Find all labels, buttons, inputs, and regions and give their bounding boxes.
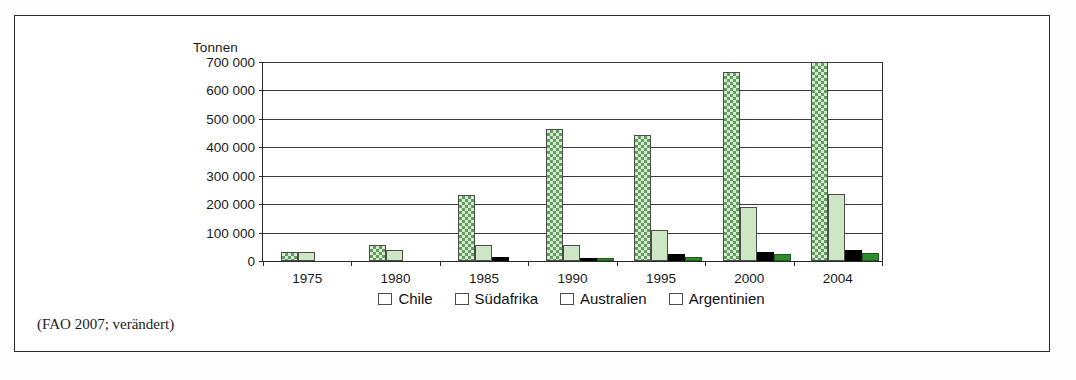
bar-chile-1975 <box>281 252 298 261</box>
legend-swatch-sudafrika <box>455 293 469 305</box>
bar-chile-2000 <box>723 72 740 261</box>
bar-sudafrika-1995 <box>651 230 668 261</box>
x-axis-tick-label-1990: 1990 <box>532 271 612 286</box>
y-axis-tick-labels: 700 000600 000500 000400 000300 000200 0… <box>187 62 255 261</box>
x-axis-tick-mark <box>882 261 883 266</box>
x-axis-tick-mark <box>617 261 618 266</box>
y-axis-tick-label: 0 <box>185 254 255 269</box>
bar-chile-1990 <box>546 129 563 261</box>
legend-item-argentinien: Argentinien <box>669 290 765 307</box>
x-axis-tick-label-1980: 1980 <box>356 271 436 286</box>
x-axis-tick-label-1995: 1995 <box>621 271 701 286</box>
legend-label: Südafrika <box>475 290 538 307</box>
y-axis-tick-label: 100 000 <box>185 225 255 240</box>
x-axis-tick-mark <box>705 261 706 266</box>
bar-chile-2004 <box>811 62 828 261</box>
category-group: 1995 <box>617 62 705 261</box>
category-group: 2000 <box>705 62 793 261</box>
x-axis-tick-label-2004: 2004 <box>798 271 878 286</box>
bar-australien-1990 <box>580 258 597 261</box>
clipped-top-text <box>150 0 910 5</box>
y-axis-tick-label: 400 000 <box>185 140 255 155</box>
bar-chart: Tonnen 700 000600 000500 000400 000300 0… <box>15 16 1049 351</box>
bar-sudafrika-1975 <box>298 252 315 261</box>
source-caption: (FAO 2007; verändert) <box>37 316 174 333</box>
legend-label: Chile <box>398 290 432 307</box>
legend-item-australien: Australien <box>560 290 647 307</box>
y-axis-tick-label: 500 000 <box>185 111 255 126</box>
category-group: 1975 <box>263 62 351 261</box>
bar-group <box>546 62 614 261</box>
bar-australien-1985 <box>492 257 509 261</box>
x-axis-tick-mark <box>263 261 264 266</box>
bar-group <box>723 62 791 261</box>
bar-australien-2004 <box>845 250 862 261</box>
y-axis-tick-label: 600 000 <box>185 83 255 98</box>
figure-frame: Tonnen 700 000600 000500 000400 000300 0… <box>14 15 1050 352</box>
bar-australien-2000 <box>757 252 774 261</box>
category-group: 1980 <box>351 62 439 261</box>
legend-label: Argentinien <box>689 290 765 307</box>
bar-group <box>281 62 349 261</box>
legend-swatch-australien <box>560 293 574 305</box>
bar-group <box>369 62 437 261</box>
plot-area: 1975198019851990199520002004 <box>262 62 883 262</box>
bar-australien-1995 <box>668 254 685 261</box>
bar-chile-1980 <box>369 245 386 261</box>
y-axis-tick-label: 200 000 <box>185 197 255 212</box>
bar-sudafrika-1985 <box>475 245 492 261</box>
legend-item-sudafrika: Südafrika <box>455 290 538 307</box>
bar-sudafrika-1990 <box>563 245 580 261</box>
bar-sudafrika-2004 <box>828 194 845 261</box>
bar-group <box>634 62 702 261</box>
x-axis-tick-mark <box>351 261 352 266</box>
bar-chile-1985 <box>458 195 475 261</box>
legend-swatch-argentinien <box>669 293 683 305</box>
y-axis-tick-label: 700 000 <box>185 55 255 70</box>
bar-chile-1995 <box>634 135 651 261</box>
x-axis-tick-mark <box>794 261 795 266</box>
bar-argentinien-1990 <box>597 258 614 261</box>
category-group: 1985 <box>440 62 528 261</box>
x-axis-tick-mark <box>528 261 529 266</box>
bar-group <box>811 62 879 261</box>
x-axis-tick-label-1985: 1985 <box>444 271 524 286</box>
bar-sudafrika-1980 <box>386 250 403 261</box>
category-group: 1990 <box>528 62 616 261</box>
y-axis-title: Tonnen <box>193 40 238 55</box>
x-axis-tick-label-1975: 1975 <box>267 271 347 286</box>
chart-legend: ChileSüdafrikaAustralienArgentinien <box>262 290 881 307</box>
bar-argentinien-2000 <box>774 254 791 261</box>
x-axis-tick-mark <box>440 261 441 266</box>
bar-group <box>458 62 526 261</box>
legend-label: Australien <box>580 290 647 307</box>
bar-argentinien-1995 <box>685 257 702 261</box>
legend-swatch-chile <box>378 293 392 305</box>
bar-argentinien-2004 <box>862 253 879 261</box>
scanned-page: Tonnen 700 000600 000500 000400 000300 0… <box>0 0 1076 380</box>
x-axis-tick-label-2000: 2000 <box>709 271 789 286</box>
category-group: 2004 <box>794 62 882 261</box>
legend-item-chile: Chile <box>378 290 432 307</box>
y-axis-tick-label: 300 000 <box>185 168 255 183</box>
bar-sudafrika-2000 <box>740 207 757 261</box>
